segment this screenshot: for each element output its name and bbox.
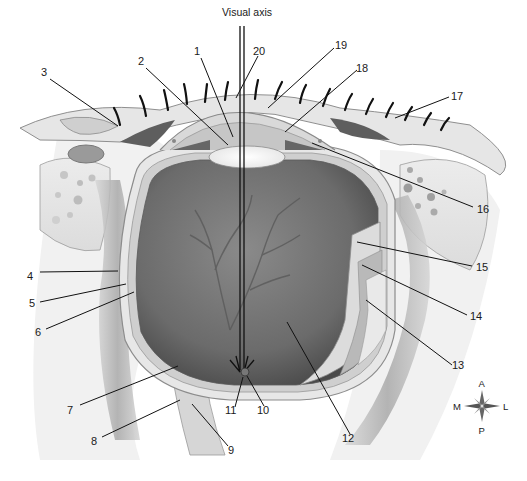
label-17: 17	[451, 90, 463, 102]
compass-rose-icon: A P M L	[453, 378, 508, 436]
label-6: 6	[35, 326, 41, 338]
label-2: 2	[138, 55, 144, 67]
label-1: 1	[194, 45, 200, 57]
label-9: 9	[228, 444, 234, 456]
label-12: 12	[342, 432, 354, 444]
label-15: 15	[476, 261, 488, 273]
compass-medial: M	[453, 401, 461, 412]
label-18: 18	[356, 62, 368, 74]
label-7: 7	[67, 404, 73, 416]
label-20: 20	[253, 45, 265, 57]
visual-axis-label: Visual axis	[222, 6, 272, 18]
label-4: 4	[27, 270, 33, 282]
label-10: 10	[257, 404, 269, 416]
label-19: 19	[335, 39, 347, 51]
compass-posterior: P	[479, 425, 485, 436]
label-3: 3	[41, 66, 47, 78]
compass-lateral: L	[503, 401, 508, 412]
label-14: 14	[470, 310, 482, 322]
eye-anatomy-diagram: Visual axis 1 2 3 4 5 6 7 8 9 10 11 12 1…	[0, 0, 527, 481]
label-5: 5	[29, 297, 35, 309]
label-16: 16	[477, 203, 489, 215]
label-8: 8	[91, 435, 97, 447]
label-13: 13	[452, 359, 464, 371]
compass-anterior: A	[479, 378, 486, 389]
label-11: 11	[225, 404, 236, 416]
